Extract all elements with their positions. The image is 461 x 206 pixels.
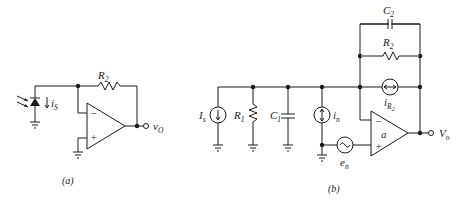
node-dot bbox=[76, 84, 80, 88]
vo-label: Vo bbox=[439, 127, 450, 142]
resistor-r1 bbox=[249, 87, 257, 145]
c2-label: C2 bbox=[383, 4, 394, 19]
gain-label: a bbox=[381, 128, 387, 140]
in-label: in bbox=[333, 109, 340, 124]
vo-label: vO bbox=[153, 120, 164, 135]
ground-icon bbox=[248, 145, 258, 151]
figure-b-noise-model: Is R1 C1 in en C2 R2 iR2 bbox=[198, 4, 450, 195]
ir2-label: iR2 bbox=[384, 96, 395, 112]
sine-icon bbox=[340, 143, 350, 147]
output-terminal bbox=[144, 124, 149, 129]
r2-label: R2 bbox=[97, 69, 109, 84]
is-label: iS bbox=[51, 97, 58, 112]
r1-label: R1 bbox=[233, 109, 244, 124]
output-terminal bbox=[429, 131, 434, 136]
figure-a-photodiode-amplifier: R2 iS − + vO (a) bbox=[17, 69, 164, 187]
svg-text:−: − bbox=[90, 107, 97, 119]
ground-icon bbox=[73, 152, 83, 158]
caption-a: (a) bbox=[62, 175, 74, 187]
en-label: en bbox=[340, 156, 349, 171]
circuit-figure: R2 iS − + vO (a) bbox=[0, 0, 461, 206]
photodiode-icon bbox=[30, 98, 40, 106]
arrow-down-icon bbox=[216, 110, 220, 120]
is-label: Is bbox=[198, 109, 206, 124]
ground-icon bbox=[283, 145, 293, 151]
svg-text:−: − bbox=[375, 115, 382, 127]
r2-label: R2 bbox=[382, 36, 394, 51]
ground-icon bbox=[30, 122, 40, 128]
input-wire bbox=[35, 86, 87, 113]
capacitor-c1 bbox=[281, 87, 295, 145]
svg-text:+: + bbox=[375, 140, 382, 152]
ground-icon bbox=[317, 155, 327, 161]
caption-b: (b) bbox=[328, 183, 340, 195]
svg-text:+: + bbox=[90, 131, 97, 143]
ground-icon bbox=[213, 145, 223, 151]
noise-arrow-icon bbox=[320, 109, 324, 121]
c1-label: C1 bbox=[270, 109, 281, 124]
